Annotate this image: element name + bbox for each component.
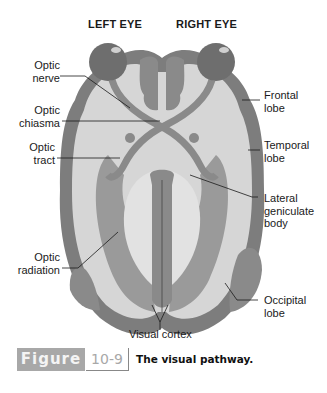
label-line: lobe [264, 152, 309, 165]
label-line: lobe [264, 102, 298, 115]
label-occipital-lobe: Occipital lobe [264, 294, 306, 319]
label-visual-cortex: Visual cortex [129, 328, 192, 341]
label-line: Temporal [264, 139, 309, 152]
label-line: Lateral [264, 192, 314, 205]
label-temporal-lobe: Temporal lobe [264, 139, 309, 164]
label-line: geniculate [264, 205, 314, 218]
label-line: tract [5, 154, 55, 167]
label-line: Optic [10, 104, 60, 117]
left-eyeball [89, 43, 127, 81]
label-line: nerve [10, 72, 60, 85]
figure-caption: The visual pathway. [136, 353, 253, 365]
label-optic-chiasma: Optic chiasma [10, 104, 60, 129]
label-line: Optic [5, 251, 60, 264]
label-line: Optic [10, 59, 60, 72]
label-line: Optic [5, 141, 55, 154]
label-line: Frontal [264, 89, 298, 102]
figure-number: 10-9 [86, 348, 129, 371]
label-line: body [264, 217, 314, 230]
label-lateral-geniculate-body: Lateral geniculate body [264, 192, 314, 230]
label-line: Occipital [264, 294, 306, 307]
label-line: chiasma [10, 117, 60, 130]
label-optic-nerve: Optic nerve [10, 59, 60, 84]
label-optic-radiation: Optic radiation [5, 251, 60, 276]
label-line: radiation [5, 264, 60, 277]
right-eyeball [197, 43, 235, 81]
label-frontal-lobe: Frontal lobe [264, 89, 298, 114]
label-line: lobe [264, 307, 306, 320]
figure-label-box: Figure [17, 348, 85, 371]
label-optic-tract: Optic tract [5, 141, 55, 166]
